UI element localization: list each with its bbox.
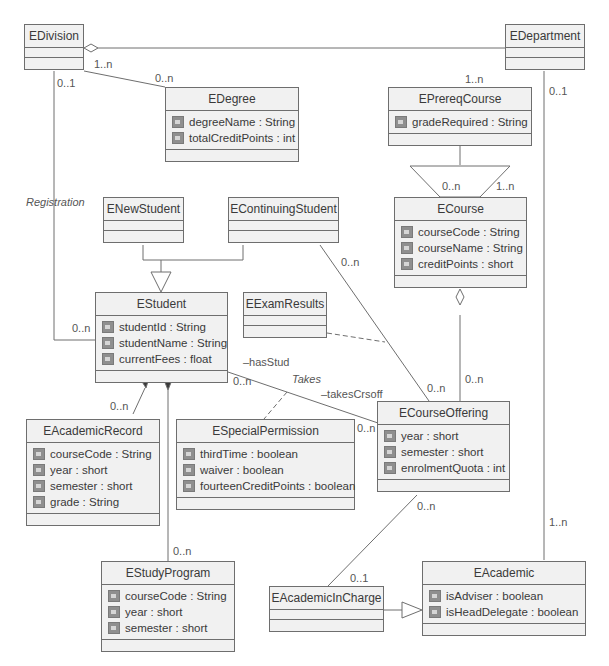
attributes-compartment: thirdTime : boolean waiver : boolean fou… [177, 443, 354, 498]
attribute-icon [384, 430, 396, 442]
attribute-icon [33, 448, 45, 460]
class-edegree[interactable]: EDegree degreeName : String totalCreditP… [165, 87, 299, 162]
multiplicity-label: 0..n [110, 400, 128, 412]
attribute-icon [384, 462, 396, 474]
multiplicity-label: 0..1 [350, 572, 368, 584]
attribute: fourteenCreditPoints : boolean [183, 478, 350, 494]
operations-compartment [506, 58, 584, 69]
class-name: EAcademicRecord [27, 420, 159, 443]
attributes-compartment: year : short semester : short enrolmentQ… [378, 425, 509, 480]
multiplicity-label: 0..n [155, 72, 173, 84]
attributes-compartment [25, 48, 83, 58]
class-especialpermission[interactable]: ESpecialPermission thirdTime : boolean w… [176, 419, 355, 510]
class-name: ESpecialPermission [177, 420, 354, 443]
operations-compartment [104, 231, 183, 242]
class-name: EDegree [166, 88, 298, 111]
operations-compartment [395, 276, 526, 287]
class-estudyprogram[interactable]: EStudyProgram courseCode : String year :… [101, 561, 235, 652]
attribute: enrolmentQuota : int [384, 460, 505, 476]
class-name: EStudent [96, 293, 227, 316]
class-name: EAcademic [423, 562, 585, 585]
class-name: ECourseOffering [378, 402, 509, 425]
multiplicity-label: 0..n [341, 256, 359, 268]
class-ecourse[interactable]: ECourse courseCode : String courseName :… [394, 197, 527, 288]
attributes-compartment: courseCode : String year : short semeste… [27, 443, 159, 514]
attribute-icon [108, 590, 120, 602]
class-eexamresults[interactable]: EExamResults [243, 292, 327, 338]
multiplicity-label: 0..n [417, 500, 435, 512]
class-name: ENewStudent [104, 198, 183, 221]
attribute: totalCreditPoints : int [172, 130, 294, 146]
attribute-icon [108, 606, 120, 618]
attribute: isAdviser : boolean [429, 588, 581, 604]
attributes-compartment [506, 48, 584, 58]
multiplicity-label: 0..1 [549, 85, 567, 97]
class-eacademicrecord[interactable]: EAcademicRecord courseCode : String year… [26, 419, 160, 526]
attribute: creditPoints : short [401, 256, 522, 272]
multiplicity-label: 0..n [233, 375, 251, 387]
class-edepartment[interactable]: EDepartment [505, 24, 585, 70]
operations-compartment [25, 58, 83, 69]
attribute-icon [108, 622, 120, 634]
attribute-icon [33, 480, 45, 492]
attribute: degreeName : String [172, 114, 294, 130]
association-name-label: Takes [292, 373, 321, 385]
class-name: EExamResults [244, 293, 326, 316]
class-name: EDivision [25, 25, 83, 48]
role-label: –takesCrsoff [321, 388, 383, 400]
attribute-icon [401, 242, 413, 254]
attributes-compartment: courseCode : String year : short semeste… [102, 585, 234, 640]
attribute: semester : short [33, 478, 155, 494]
attribute-icon [183, 464, 195, 476]
attribute-icon [384, 446, 396, 458]
operations-compartment [166, 150, 298, 161]
class-eacademic[interactable]: EAcademic isAdviser : boolean isHeadDele… [422, 561, 586, 636]
attribute-icon [401, 226, 413, 238]
role-label: –hasStud [243, 356, 289, 368]
multiplicity-label: 0..n [173, 545, 191, 557]
attribute: isHeadDelegate : boolean [429, 604, 581, 620]
attribute: year : short [33, 462, 155, 478]
class-eacademicincharge[interactable]: EAcademicInCharge [269, 586, 384, 632]
multiplicity-label: 0..1 [57, 77, 75, 89]
attribute-icon [102, 337, 114, 349]
multiplicity-label: 0..n [442, 180, 460, 192]
attribute-icon [183, 480, 195, 492]
class-estudent[interactable]: EStudent studentId : String studentName … [95, 292, 228, 383]
attribute-icon [172, 132, 184, 144]
class-edivision[interactable]: EDivision [24, 24, 84, 70]
class-econtinuingstudent[interactable]: EContinuingStudent [228, 197, 339, 243]
attribute-icon [102, 353, 114, 365]
class-eprereqcourse[interactable]: EPrereqCourse gradeRequired : String [388, 87, 532, 146]
attribute: currentFees : float [102, 351, 223, 367]
class-name: EDepartment [506, 25, 584, 48]
attribute: semester : short [108, 620, 230, 636]
attributes-compartment: gradeRequired : String [389, 111, 531, 134]
attribute-icon [102, 321, 114, 333]
attribute: courseName : String [401, 240, 522, 256]
multiplicity-label: 0..n [72, 322, 90, 334]
attribute-icon [395, 116, 407, 128]
attribute-icon [33, 464, 45, 476]
operations-compartment [389, 134, 531, 145]
attribute: waiver : boolean [183, 462, 350, 478]
attribute: grade : String [33, 494, 155, 510]
multiplicity-label: 1..n [549, 516, 567, 528]
attribute: semester : short [384, 444, 505, 460]
operations-compartment [96, 371, 227, 382]
class-name: EContinuingStudent [229, 198, 338, 221]
class-name: EPrereqCourse [389, 88, 531, 111]
attribute: thirdTime : boolean [183, 446, 350, 462]
attribute: gradeRequired : String [395, 114, 527, 130]
multiplicity-label: 0..n [427, 382, 445, 394]
operations-compartment [244, 326, 326, 337]
attributes-compartment [104, 221, 183, 231]
class-enewstudent[interactable]: ENewStudent [103, 197, 184, 243]
operations-compartment [270, 620, 383, 631]
class-name: ECourse [395, 198, 526, 221]
attributes-compartment: studentId : String studentName : String … [96, 316, 227, 371]
attributes-compartment [244, 316, 326, 326]
class-name: EStudyProgram [102, 562, 234, 585]
multiplicity-label: 1..n [94, 58, 112, 70]
class-ecourseoffering[interactable]: ECourseOffering year : short semester : … [377, 401, 510, 492]
